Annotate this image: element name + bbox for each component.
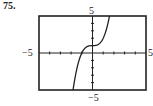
- graph-window: [0, 0, 153, 106]
